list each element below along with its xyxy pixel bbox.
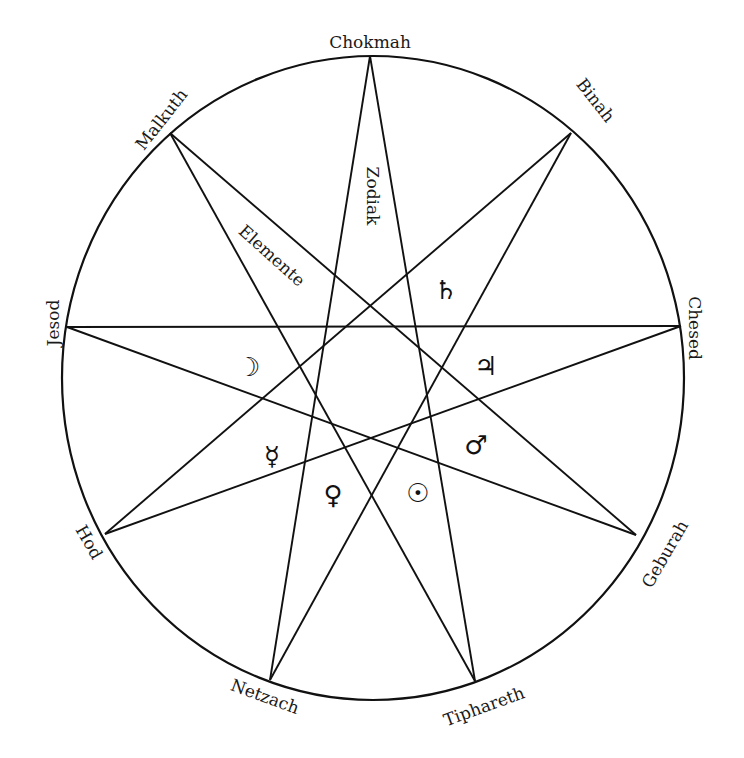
label-chesed: Chesed: [685, 296, 705, 360]
label-geburah: Geburah: [637, 517, 692, 592]
label-hod: Hod: [72, 521, 107, 562]
line-binah-netzach: [270, 133, 571, 680]
label-jesod: Jesod: [43, 300, 63, 349]
moon-icon: ☽: [237, 352, 260, 382]
jupiter-icon: ♃: [474, 351, 497, 381]
mercury-icon: ☿: [264, 441, 280, 471]
line-geburah-malkuth: [170, 133, 636, 535]
label-binah: Binah: [572, 74, 619, 126]
enneagram-diagram: Chokmah Binah Chesed Geburah Tiphareth N…: [0, 0, 744, 758]
star-lines: [67, 56, 681, 681]
label-elemente: Elemente: [235, 221, 309, 291]
line-chokmah-netzach: [270, 56, 370, 680]
venus-icon: ♀: [323, 480, 342, 510]
outer-circle: [62, 56, 684, 700]
line-binah-hod: [105, 133, 571, 534]
label-netzach: Netzach: [228, 675, 302, 718]
line-geburah-jesod: [67, 327, 636, 535]
mars-icon: ♂: [464, 430, 487, 460]
saturn-icon: ♄: [434, 275, 457, 305]
label-chokmah: Chokmah: [329, 32, 411, 52]
sun-icon: ☉: [406, 478, 429, 508]
line-chesed-hod: [105, 326, 681, 534]
label-zodiak: Zodiak: [363, 167, 383, 227]
line-chesed-jesod: [67, 326, 681, 327]
